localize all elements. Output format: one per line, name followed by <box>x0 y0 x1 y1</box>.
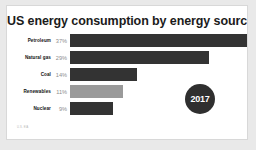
bar-petroleum <box>70 34 247 47</box>
category-label-natural-gas: Natural gas <box>7 55 51 60</box>
value-label-nuclear: 9% <box>53 106 67 112</box>
bar-track-nuclear <box>70 102 247 115</box>
bar-nuclear <box>70 102 113 115</box>
bar-renewables <box>70 85 123 98</box>
source-note: U.S. EIA <box>17 126 29 129</box>
value-label-natural-gas: 29% <box>53 55 67 61</box>
value-label-petroleum: 37% <box>53 38 67 44</box>
chart-card: US energy consumption by energy source P… <box>6 5 248 140</box>
bar-track-renewables <box>70 85 247 98</box>
bar-track-coal <box>70 68 247 81</box>
category-label-renewables: Renewables <box>7 89 51 94</box>
bar-natural-gas <box>70 51 209 64</box>
bar-row-coal: Coal 14% <box>7 68 247 81</box>
bar-coal <box>70 68 137 81</box>
chart-title: US energy consumption by energy source <box>7 14 247 28</box>
bar-row-petroleum: Petroleum 37% <box>7 34 247 47</box>
bar-track-natural-gas <box>70 51 247 64</box>
category-label-petroleum: Petroleum <box>7 38 51 43</box>
value-label-renewables: 11% <box>53 89 67 95</box>
value-label-coal: 14% <box>53 72 67 78</box>
category-label-coal: Coal <box>7 72 51 77</box>
bar-track-petroleum <box>70 34 247 47</box>
category-label-nuclear: Nuclear <box>7 106 51 111</box>
bar-row-natural-gas: Natural gas 29% <box>7 51 247 64</box>
year-badge: 2017 <box>185 84 215 114</box>
